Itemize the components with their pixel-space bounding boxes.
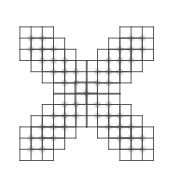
fractal-lattice-figure: [0, 0, 173, 186]
figure-root: [0, 0, 173, 186]
